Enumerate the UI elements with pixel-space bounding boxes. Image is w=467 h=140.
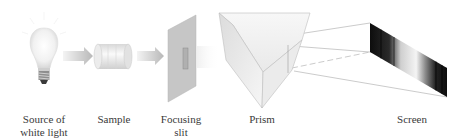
label-slit: Focusing slit: [156, 113, 206, 139]
prism-icon: [219, 13, 310, 108]
arrow-right-icon: [63, 47, 93, 65]
label-screen: Screen: [390, 113, 434, 126]
label-prism: Prism: [242, 113, 282, 126]
label-source: Source of white light: [12, 113, 76, 139]
light-bulb-icon: [22, 12, 66, 84]
label-sample: Sample: [92, 113, 136, 126]
arrow-right-icon: [137, 47, 164, 65]
slit-plate-icon: [168, 15, 220, 102]
sample-cell-icon: [94, 44, 132, 69]
